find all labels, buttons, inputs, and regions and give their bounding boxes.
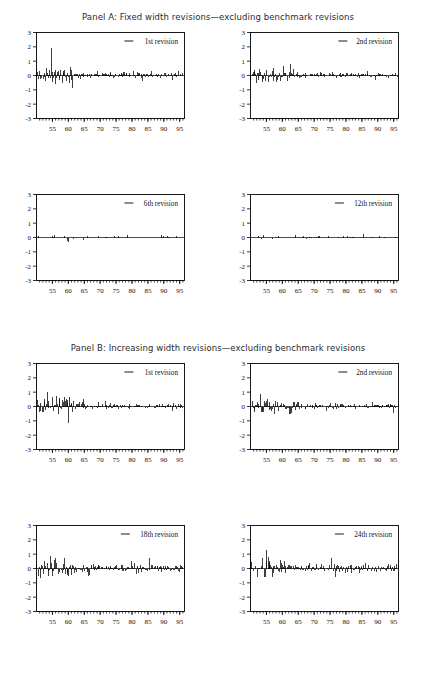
y-tick-label: -2 <box>25 432 31 440</box>
y-tick-label: 3 <box>28 191 32 199</box>
y-tick-label: 1 <box>242 58 246 66</box>
x-tick-label: 90 <box>160 456 168 464</box>
x-tick-label: 55 <box>263 618 271 626</box>
subplot-panel-a-6th-revision: 3210-1-2-35560657075808590956th revision <box>4 184 190 302</box>
x-tick-label: 95 <box>176 125 184 133</box>
y-tick-label: 3 <box>28 360 32 368</box>
legend-label: 12th revision <box>354 200 392 208</box>
y-tick-label: 2 <box>242 536 246 544</box>
y-tick-label: 1 <box>28 551 32 559</box>
x-tick-label: 85 <box>144 456 152 464</box>
x-tick-label: 95 <box>176 287 184 295</box>
series-spikes <box>37 48 185 88</box>
legend-label: 1st revision <box>145 369 179 377</box>
x-tick-label: 70 <box>311 287 319 295</box>
revisions-figure: Panel A: Fixed width revisions—excluding… <box>0 0 436 684</box>
x-tick-label: 85 <box>358 456 366 464</box>
y-tick-label: 0 <box>242 234 246 242</box>
x-tick-label: 95 <box>390 287 398 295</box>
x-tick-label: 80 <box>128 456 136 464</box>
x-tick-label: 75 <box>327 287 335 295</box>
x-tick-label: 65 <box>81 287 89 295</box>
y-tick-label: 2 <box>242 374 246 382</box>
y-tick-label: 0 <box>242 565 246 573</box>
x-tick-label: 70 <box>311 618 319 626</box>
y-tick-label: 1 <box>28 389 32 397</box>
y-tick-label: -3 <box>25 115 31 123</box>
x-tick-label: 75 <box>113 618 121 626</box>
x-tick-label: 60 <box>65 618 73 626</box>
y-tick-label: -3 <box>25 446 31 454</box>
x-tick-label: 60 <box>279 456 287 464</box>
x-tick-label: 55 <box>49 287 57 295</box>
y-tick-label: -2 <box>25 101 31 109</box>
y-tick-label: -1 <box>25 417 31 425</box>
y-tick-label: -3 <box>239 608 245 616</box>
x-tick-label: 55 <box>263 456 271 464</box>
legend-label: 6th revision <box>144 200 179 208</box>
x-tick-label: 55 <box>263 125 271 133</box>
y-tick-label: -3 <box>239 115 245 123</box>
x-tick-label: 65 <box>295 618 303 626</box>
y-tick-label: 2 <box>28 43 32 51</box>
x-tick-label: 65 <box>295 287 303 295</box>
legend-label: 2nd revision <box>356 369 392 377</box>
legend-label: 2nd revision <box>356 38 392 46</box>
y-tick-label: -2 <box>25 594 31 602</box>
x-tick-label: 85 <box>358 125 366 133</box>
y-tick-label: 0 <box>28 72 32 80</box>
y-tick-label: -3 <box>25 277 31 285</box>
x-tick-label: 90 <box>374 287 382 295</box>
series-spikes <box>37 392 185 423</box>
x-tick-label: 70 <box>311 456 319 464</box>
y-tick-label: -2 <box>239 432 245 440</box>
y-tick-label: -1 <box>239 417 245 425</box>
x-tick-label: 55 <box>49 456 57 464</box>
y-tick-label: 0 <box>28 234 32 242</box>
x-tick-label: 55 <box>49 618 57 626</box>
x-tick-label: 60 <box>279 287 287 295</box>
y-tick-label: 2 <box>28 536 32 544</box>
y-tick-label: 1 <box>28 58 32 66</box>
x-tick-label: 65 <box>295 456 303 464</box>
x-tick-label: 75 <box>113 125 121 133</box>
x-tick-label: 95 <box>176 618 184 626</box>
y-tick-label: -3 <box>239 277 245 285</box>
y-tick-label: 1 <box>242 389 246 397</box>
x-tick-label: 60 <box>65 287 73 295</box>
x-tick-label: 65 <box>295 125 303 133</box>
x-tick-label: 90 <box>160 618 168 626</box>
x-tick-label: 80 <box>128 618 136 626</box>
subplot-panel-a-12th-revision: 3210-1-2-355606570758085909512th revisio… <box>218 184 404 302</box>
x-tick-label: 80 <box>128 287 136 295</box>
subplot-panel-b-2nd-revision: 3210-1-2-35560657075808590952nd revision <box>218 353 404 471</box>
x-tick-label: 95 <box>390 618 398 626</box>
x-tick-label: 90 <box>160 125 168 133</box>
x-tick-label: 55 <box>49 125 57 133</box>
x-tick-label: 90 <box>374 618 382 626</box>
x-tick-label: 70 <box>311 125 319 133</box>
y-tick-label: 3 <box>28 29 32 37</box>
y-tick-label: 1 <box>242 220 246 228</box>
series-spikes <box>251 64 399 83</box>
x-tick-label: 90 <box>374 125 382 133</box>
x-tick-label: 85 <box>144 618 152 626</box>
series-spikes <box>251 234 399 239</box>
y-tick-label: -1 <box>239 579 245 587</box>
x-tick-label: 60 <box>65 456 73 464</box>
x-tick-label: 85 <box>144 125 152 133</box>
panel-a-title: Panel A: Fixed width revisions—excluding… <box>0 12 436 22</box>
y-tick-label: -2 <box>25 263 31 271</box>
y-tick-label: 0 <box>242 403 246 411</box>
y-tick-label: 2 <box>242 43 246 51</box>
x-tick-label: 95 <box>390 125 398 133</box>
x-tick-label: 75 <box>113 456 121 464</box>
y-tick-label: 3 <box>242 191 246 199</box>
x-tick-label: 80 <box>342 287 350 295</box>
y-tick-label: 3 <box>28 522 32 530</box>
series-spikes <box>252 394 399 414</box>
y-tick-label: 3 <box>242 522 246 530</box>
x-tick-label: 80 <box>128 125 136 133</box>
x-tick-label: 85 <box>358 287 366 295</box>
x-tick-label: 60 <box>279 618 287 626</box>
